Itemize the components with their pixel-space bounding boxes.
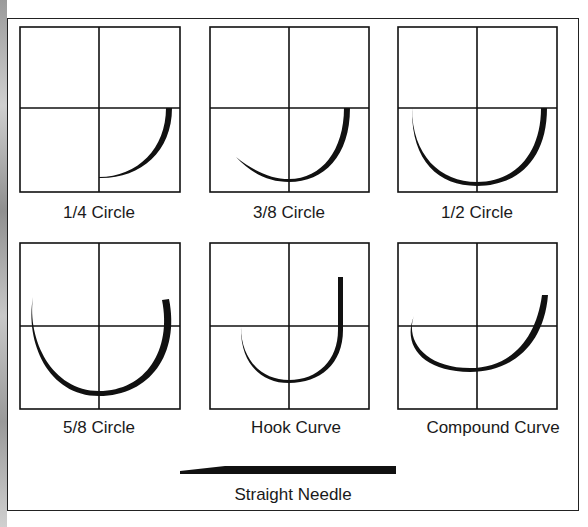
label-half: 1/2 Circle (441, 203, 513, 223)
panel-box-half (398, 27, 557, 192)
panel-box-five-eighths (20, 243, 180, 409)
panel-box-hook (210, 243, 369, 409)
needle-straight-icon (180, 466, 396, 474)
panel-box-compound (398, 243, 557, 409)
label-hook: Hook Curve (251, 418, 341, 438)
label-compound: Compound Curve (426, 418, 559, 438)
needle-five-eighths-icon (31, 297, 171, 396)
label-quarter: 1/4 Circle (63, 203, 135, 223)
needle-half-icon (412, 108, 547, 186)
label-straight: Straight Needle (234, 485, 351, 505)
panel-box-quarter (20, 27, 180, 192)
label-five-eighths: 5/8 Circle (63, 418, 135, 438)
needle-three-eighths-icon (236, 108, 350, 182)
needle-quarter-icon (99, 108, 172, 178)
needle-diagram (0, 0, 588, 527)
needle-compound-icon (411, 295, 548, 372)
needle-hook-icon (241, 277, 343, 383)
label-three-eighths: 3/8 Circle (253, 203, 325, 223)
